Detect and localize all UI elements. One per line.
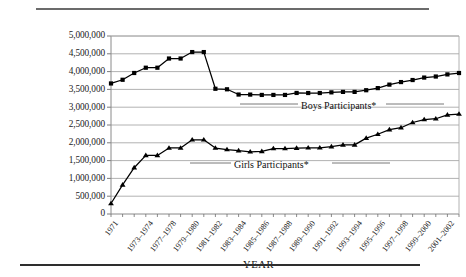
y-axis-tick-label: 1,000,000 xyxy=(43,174,105,183)
data-point-marker xyxy=(306,91,310,95)
data-point-marker xyxy=(213,87,217,91)
data-point-marker xyxy=(422,75,426,79)
y-axis-tick-label: 4,000,000 xyxy=(43,67,105,76)
y-axis-tick-label: 0 xyxy=(43,209,105,218)
participation-line-chart: 5,000,0004,500,0004,000,0003,500,0003,00… xyxy=(40,16,466,277)
y-axis-tick-label: 4,500,000 xyxy=(43,49,105,58)
data-point-marker xyxy=(260,93,264,97)
y-axis-tick-label: 5,000,000 xyxy=(43,31,105,40)
data-point-marker xyxy=(155,66,159,70)
data-point-marker xyxy=(364,88,368,92)
data-point-marker xyxy=(144,66,148,70)
data-point-marker xyxy=(353,90,357,94)
data-point-marker xyxy=(248,92,252,96)
data-point-marker xyxy=(179,56,183,60)
data-point-marker xyxy=(202,50,206,54)
data-point-marker xyxy=(411,78,415,82)
data-point-marker xyxy=(167,56,171,60)
y-axis-tick-label: 2,000,000 xyxy=(43,138,105,147)
data-point-marker xyxy=(225,87,229,91)
data-point-marker xyxy=(121,78,125,82)
series-label-girls: Girls Participants* xyxy=(234,159,309,170)
series-label-boys: Boys Participants* xyxy=(301,100,376,111)
data-point-marker xyxy=(190,50,194,54)
data-point-marker xyxy=(341,90,345,94)
data-point-marker xyxy=(457,71,461,75)
data-point-marker xyxy=(237,92,241,96)
data-point-marker xyxy=(456,111,462,116)
data-point-marker xyxy=(132,71,136,75)
data-point-marker xyxy=(387,83,391,87)
data-point-marker xyxy=(295,91,299,95)
data-point-marker xyxy=(318,91,322,95)
y-axis-tick-label: 3,000,000 xyxy=(43,103,105,112)
data-point-marker xyxy=(376,86,380,90)
data-point-marker xyxy=(109,81,113,85)
data-point-marker xyxy=(445,72,449,76)
y-axis-tick-label: 2,500,000 xyxy=(43,120,105,129)
y-axis-tick-label: 1,500,000 xyxy=(43,156,105,165)
data-point-marker xyxy=(434,74,438,78)
data-point-marker xyxy=(271,93,275,97)
bottom-divider-rule xyxy=(20,264,420,266)
y-axis-tick-label: 500,000 xyxy=(43,192,105,201)
data-point-marker xyxy=(399,80,403,84)
y-axis-tick-label: 3,500,000 xyxy=(43,85,105,94)
series-line-boys xyxy=(111,52,459,95)
data-point-marker xyxy=(283,93,287,97)
top-divider-rule xyxy=(36,8,429,10)
data-point-marker xyxy=(329,90,333,94)
